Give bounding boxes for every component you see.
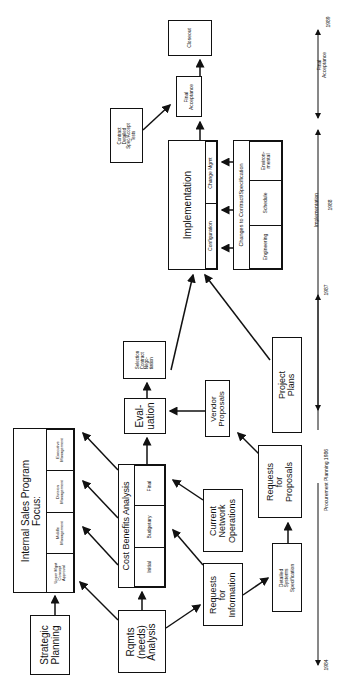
timeline-year-1987: 1987 <box>320 280 334 300</box>
timeline-year-1988: 1988 <box>324 195 338 215</box>
cost-benefits-box: Cost Benefits Analysis Initial Budgetary… <box>118 464 166 588</box>
cell-engineering: Engineering <box>263 234 268 261</box>
implementation-box: Implementation Configuration Change Mgmt <box>168 140 218 270</box>
strategic-planning-label: Strategic Planning <box>40 625 61 664</box>
timeline-phase-procurement: Procurement Planning 1986 <box>320 440 334 520</box>
contract-detailed-label: Contract Detailed Spec/Accept Tests <box>117 123 136 148</box>
contract-detailed-box: Contract Detailed Spec/Accept Tests <box>110 108 143 163</box>
cell-upper-mgnt: Upper Mgnt Concept Approval <box>54 563 67 584</box>
final-acceptance-label: Final Acceptance <box>184 83 195 109</box>
project-plans-label: Project Plans <box>278 371 297 399</box>
cell-change-mgmt: Change Mgmt <box>208 157 213 188</box>
rfp-box: Requests for Proposals <box>258 445 302 518</box>
cell-initial: Initial <box>147 561 152 573</box>
rfp-label: Requests for Proposals <box>266 461 294 501</box>
detailed-spec-label: Detailed Systems Specification <box>279 563 295 591</box>
vendor-proposals-box: Vendor Proposals <box>205 380 230 437</box>
current-network-label: Current Network Operations <box>209 498 237 542</box>
timeline-phase-implementation: Implementation <box>310 180 324 240</box>
rfi-label: Requests for Information <box>209 572 237 617</box>
selection-label: Selection Contract Nego- tiation <box>135 351 154 370</box>
cell-schedule: Schedule <box>263 193 268 214</box>
evaluation-box: Eval- uation <box>124 398 166 434</box>
evaluation-label: Eval- uation <box>135 402 156 429</box>
cell-final: Final <box>147 480 152 491</box>
rqmts-box: Rqmts (needs) Analysis <box>118 610 166 673</box>
vendor-proposals-label: Vendor Proposals <box>209 391 226 427</box>
final-acceptance-box: Final Acceptance <box>176 76 202 117</box>
cell-budgetary: Budgetary <box>147 515 152 538</box>
changes-title: Changes to Contract/Specification <box>239 163 245 246</box>
cell-environmental: Environ- mental <box>260 152 271 171</box>
rqmts-label: Rqmts (needs) Analysis <box>126 623 158 660</box>
rfi-box: Requests for Information <box>203 563 243 626</box>
timeline-year-1984: 1984 <box>320 655 334 675</box>
cost-benefits-title: Cost Benefits Analysis <box>122 481 131 570</box>
cell-division-mgmt: Division Management <box>56 480 64 503</box>
selection-box: Selection Contract Nego- tiation <box>123 341 166 379</box>
project-plans-box: Project Plans <box>272 337 302 433</box>
current-network-box: Current Network Operations <box>203 489 243 552</box>
timeline-year-1989: 1989 <box>322 12 336 32</box>
implementation-title: Implementation <box>182 171 193 239</box>
internal-sales-box: Internal Sales Program Focus: Upper Mgnt… <box>13 428 75 593</box>
changes-box: Changes to Contract/Specification Engine… <box>233 140 283 270</box>
cell-configuration: Configuration <box>208 221 213 251</box>
timeline-phase-final-acceptance: Final Acceptance <box>308 45 336 85</box>
closeout-label: Closeout <box>187 28 192 48</box>
cell-executive-mgmt: Executive Management <box>56 438 64 461</box>
internal-sales-title: Internal Sales Program Focus: <box>20 459 41 561</box>
cell-middle-mgmt: Middle Management <box>56 521 64 544</box>
strategic-planning-box: Strategic Planning <box>30 615 70 675</box>
detailed-spec-box: Detailed Systems Specification <box>272 543 302 612</box>
closeout-box: Closeout <box>168 20 212 56</box>
